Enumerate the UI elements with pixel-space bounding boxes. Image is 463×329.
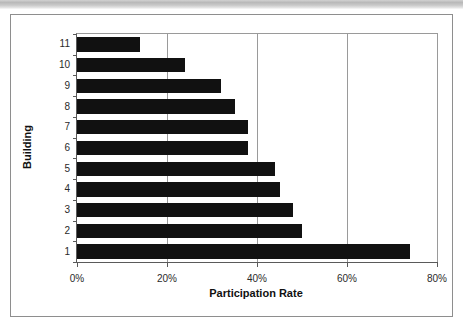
y-axis-tick <box>73 96 77 97</box>
y-axis-tick <box>73 138 77 139</box>
y-axis-title: Building <box>17 33 37 261</box>
bar-building-7[interactable] <box>77 120 248 134</box>
y-axis-tick-label: 10 <box>59 60 70 70</box>
bar-row <box>77 200 437 221</box>
x-axis-tick-label: 60% <box>337 274 357 284</box>
bar-row <box>77 34 437 55</box>
bar-building-4[interactable] <box>77 182 280 196</box>
bar-building-8[interactable] <box>77 99 235 113</box>
y-axis-tick-label: 7 <box>64 122 70 132</box>
bar-row <box>77 55 437 76</box>
bar-building-3[interactable] <box>77 203 293 217</box>
scan-artifact-band-edge <box>0 8 463 9</box>
bar-row <box>77 117 437 138</box>
scanned-page: Building 1110987654321 0%20%40%60%80% Pa… <box>0 0 463 329</box>
bar-row <box>77 96 437 117</box>
y-axis-tick <box>73 55 77 56</box>
bar-building-11[interactable] <box>77 37 140 51</box>
bar-building-1[interactable] <box>77 244 410 258</box>
x-axis-tick <box>257 262 258 267</box>
x-axis-tick-label: 80% <box>427 274 447 284</box>
bar-row <box>77 138 437 159</box>
y-axis-title-label: Building <box>21 125 33 169</box>
bar-building-9[interactable] <box>77 79 221 93</box>
bar-row <box>77 179 437 200</box>
y-axis-tick <box>73 241 77 242</box>
bar-row <box>77 241 437 262</box>
bar-series <box>77 34 437 262</box>
x-axis-tick-label: 0% <box>70 274 84 284</box>
y-axis-tick-label: 11 <box>60 39 70 49</box>
y-axis-tick-label: 1 <box>64 247 70 257</box>
y-axis-tick <box>73 179 77 180</box>
plot-area: 1110987654321 0%20%40%60%80% <box>76 33 438 263</box>
y-axis-tick-label: 3 <box>64 205 70 215</box>
bar-building-10[interactable] <box>77 58 185 72</box>
y-axis-tick <box>73 75 77 76</box>
y-axis-tick <box>73 117 77 118</box>
scan-artifact-band <box>0 0 463 8</box>
y-axis-tick-label: 4 <box>64 184 70 194</box>
bar-row <box>77 158 437 179</box>
x-axis-tick <box>347 262 348 267</box>
y-axis-tick-label: 5 <box>64 164 70 174</box>
bar-building-6[interactable] <box>77 141 248 155</box>
y-axis-tick <box>73 200 77 201</box>
x-axis-title: Participation Rate <box>76 287 436 299</box>
x-axis-tick-label: 40% <box>247 274 267 284</box>
x-axis-title-label: Participation Rate <box>209 287 303 299</box>
y-axis-tick-label: 9 <box>64 81 70 91</box>
x-axis-tick <box>437 262 438 267</box>
bar-building-2[interactable] <box>77 224 302 238</box>
y-axis-tick <box>73 34 77 35</box>
bar-row <box>77 220 437 241</box>
bar-row <box>77 75 437 96</box>
x-axis-tick-label: 20% <box>157 274 177 284</box>
y-axis-tick <box>73 158 77 159</box>
y-axis-tick-label: 6 <box>64 143 70 153</box>
y-axis-tick-label: 8 <box>64 102 70 112</box>
bar-building-5[interactable] <box>77 162 275 176</box>
y-axis-tick-label: 2 <box>64 226 70 236</box>
chart-frame: Building 1110987654321 0%20%40%60%80% Pa… <box>10 14 453 317</box>
x-axis-tick <box>77 262 78 267</box>
y-axis-tick <box>73 221 77 222</box>
x-axis-tick <box>167 262 168 267</box>
